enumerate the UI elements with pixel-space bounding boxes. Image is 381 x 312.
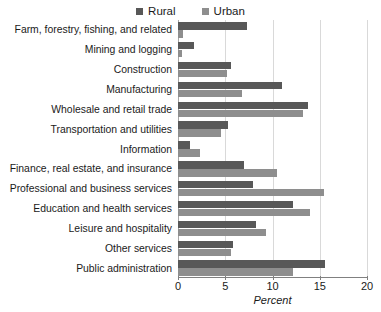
legend-label-rural: Rural (148, 5, 175, 17)
plot-wrapper: Farm, forestry, fishing, and relatedMini… (0, 20, 381, 285)
category-label-10: Leisure and hospitality (69, 223, 172, 234)
bar-urban-11 (178, 249, 231, 256)
category-label-4: Wholesale and retail trade (51, 104, 172, 115)
bar-urban-12 (178, 268, 293, 275)
gridline-10 (273, 20, 274, 278)
bar-rural-6 (178, 141, 190, 148)
chart-legend: Rural Urban (0, 2, 381, 20)
bar-urban-9 (178, 209, 310, 216)
bar-urban-10 (178, 229, 266, 236)
bar-rural-4 (178, 102, 308, 109)
bar-rural-3 (178, 82, 282, 89)
gridline-15 (320, 20, 321, 278)
bar-rural-12 (178, 260, 325, 267)
bar-urban-8 (178, 189, 324, 196)
bar-urban-0 (178, 30, 183, 37)
bar-rural-8 (178, 181, 253, 188)
bar-rural-9 (178, 201, 293, 208)
legend-swatch-rural (136, 8, 143, 15)
bar-urban-6 (178, 149, 200, 156)
x-tick-label-10: 10 (266, 280, 278, 293)
legend-entry-rural: Rural (136, 5, 175, 17)
category-label-12: Public administration (76, 263, 172, 274)
bar-rural-0 (178, 22, 247, 29)
x-tick-mark-20 (367, 276, 368, 280)
category-label-2: Construction (114, 64, 172, 75)
bar-urban-5 (178, 129, 221, 136)
x-tick-mark-5 (225, 276, 226, 280)
category-label-7: Finance, real estate, and insurance (10, 163, 172, 174)
bar-urban-1 (178, 50, 182, 57)
gridline-20 (367, 20, 368, 278)
bar-rural-10 (178, 221, 256, 228)
bar-urban-4 (178, 110, 303, 117)
category-label-9: Education and health services (33, 203, 172, 214)
bar-urban-7 (178, 169, 277, 176)
category-label-8: Professional and business services (10, 183, 172, 194)
legend-label-urban: Urban (214, 5, 245, 17)
bar-rural-7 (178, 161, 244, 168)
category-axis-labels: Farm, forestry, fishing, and relatedMini… (0, 20, 176, 278)
bar-rural-5 (178, 121, 228, 128)
bar-rural-2 (178, 62, 231, 69)
x-tick-label-5: 5 (222, 280, 228, 293)
x-tick-mark-10 (273, 276, 274, 280)
bar-urban-2 (178, 70, 227, 77)
bar-rural-1 (178, 42, 194, 49)
bar-urban-3 (178, 90, 242, 97)
x-tick-label-20: 20 (361, 280, 373, 293)
bar-chart: Rural Urban Farm, forestry, fishing, and… (0, 0, 381, 312)
plot-area (178, 20, 367, 278)
legend-entry-urban: Urban (202, 5, 245, 17)
legend-swatch-urban (202, 8, 209, 15)
category-label-5: Transportation and utilities (51, 124, 172, 135)
x-tick-label-0: 0 (175, 280, 181, 293)
category-label-11: Other services (105, 243, 172, 254)
category-label-1: Mining and logging (85, 44, 172, 55)
x-tick-mark-15 (320, 276, 321, 280)
bar-rural-11 (178, 241, 233, 248)
gridline-5 (225, 20, 226, 278)
x-tick-label-15: 15 (314, 280, 326, 293)
x-tick-mark-0 (178, 276, 179, 280)
category-label-6: Information (120, 144, 172, 155)
category-label-3: Manufacturing (106, 84, 172, 95)
category-label-0: Farm, forestry, fishing, and related (15, 24, 172, 35)
x-axis-title: Percent (178, 294, 367, 306)
